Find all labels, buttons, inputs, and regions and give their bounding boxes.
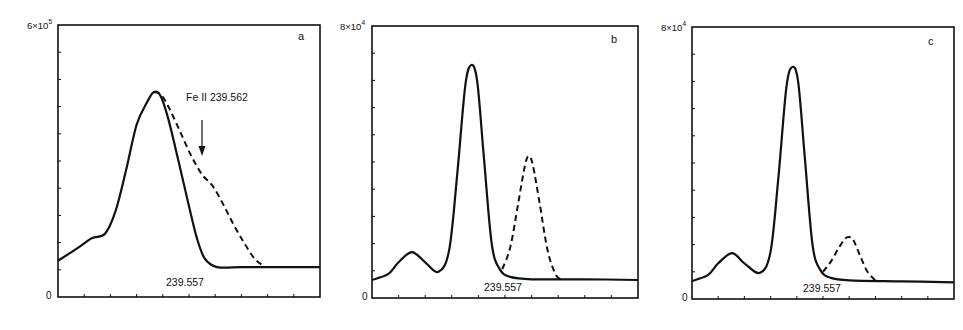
y-min-label-c: 0 — [682, 292, 688, 303]
plot-area-c — [0, 0, 963, 330]
peak-wavelength-label-c: 239.557 — [803, 282, 841, 294]
y-max-label-c: 8×104 — [661, 21, 686, 33]
panel-label-c: c — [928, 35, 934, 47]
chart-panel-c: 8×104 0 c 239.557 — [0, 0, 963, 330]
dashed-line-c — [823, 237, 875, 280]
axes-c — [692, 27, 954, 299]
solid-line-c — [692, 67, 954, 283]
